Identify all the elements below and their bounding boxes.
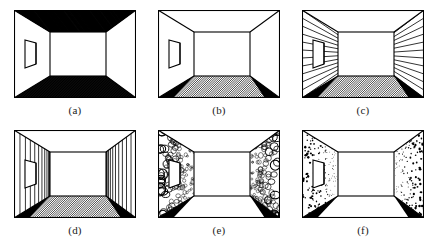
panel-caption-b: (b) xyxy=(158,104,280,116)
door-opening xyxy=(25,160,36,188)
door-opening xyxy=(169,40,180,68)
room-panel-a xyxy=(14,10,136,98)
room-drawing-a xyxy=(14,10,136,98)
room-drawing-f xyxy=(302,130,424,218)
back-wall xyxy=(338,32,394,76)
panel-caption-e: (e) xyxy=(158,224,280,236)
back-wall xyxy=(338,152,394,196)
door-opening xyxy=(25,40,36,68)
door-opening xyxy=(313,40,324,68)
room-panel-e xyxy=(158,130,280,218)
panel-caption-f: (f) xyxy=(302,224,424,236)
room-panel-f xyxy=(302,130,424,218)
back-wall xyxy=(50,152,106,196)
figure-container: (a)(b)(c)(d)(e)(f) xyxy=(0,0,432,241)
room-drawing-e xyxy=(158,130,280,218)
room-drawing-d xyxy=(14,130,136,218)
back-wall xyxy=(50,32,106,76)
door-opening xyxy=(169,160,180,188)
room-panel-b xyxy=(158,10,280,98)
door-opening xyxy=(313,160,324,188)
back-wall xyxy=(194,152,250,196)
panel-caption-c: (c) xyxy=(302,104,424,116)
room-panel-d xyxy=(14,130,136,218)
panel-caption-d: (d) xyxy=(14,224,136,236)
room-drawing-b xyxy=(158,10,280,98)
panel-caption-a: (a) xyxy=(14,104,136,116)
room-panel-c xyxy=(302,10,424,98)
back-wall xyxy=(194,32,250,76)
room-drawing-c xyxy=(302,10,424,98)
